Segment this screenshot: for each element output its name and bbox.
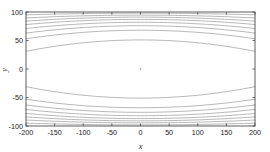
x-tick-label: 50 — [165, 128, 173, 137]
y-tick-label: 0 — [19, 65, 23, 74]
y-tick-label: 50 — [15, 36, 23, 45]
x-tick-label: -100 — [76, 128, 90, 137]
x-axis-title: x — [138, 142, 143, 151]
x-tick-label: 0 — [139, 128, 143, 137]
origin-point-contour — [140, 68, 142, 70]
y-tick-label: -50 — [13, 93, 23, 102]
x-tick-label: -150 — [47, 128, 61, 137]
y-axis-title: y — [0, 68, 9, 73]
y-tick-label: -100 — [9, 122, 23, 131]
contour-figure: -200-150-100-50050100150200 -100-5005010… — [0, 0, 270, 152]
x-tick-label: 150 — [220, 128, 232, 137]
x-tick-label: -50 — [107, 128, 117, 137]
x-tick-label: 200 — [249, 128, 261, 137]
plot-svg: -200-150-100-50050100150200 -100-5005010… — [0, 0, 270, 152]
x-tick-label: 100 — [192, 128, 204, 137]
y-tick-label: 100 — [11, 8, 23, 17]
